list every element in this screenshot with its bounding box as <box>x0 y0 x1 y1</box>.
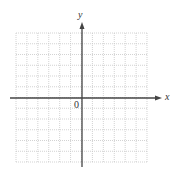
coordinate-plane <box>0 0 175 172</box>
y-axis-label: y <box>78 10 82 20</box>
coordinate-grid-figure: y x 0 <box>0 0 175 172</box>
origin-label: 0 <box>74 100 79 110</box>
x-axis-arrow-icon <box>155 96 162 101</box>
x-axis-label: x <box>165 92 169 102</box>
y-axis-arrow-icon <box>80 22 85 29</box>
